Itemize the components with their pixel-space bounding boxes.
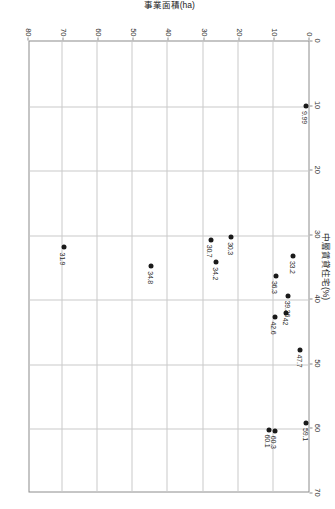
y-axis-tick-label: 0 — [305, 18, 313, 36]
gridline-horizontal — [131, 41, 132, 491]
data-point[interactable] — [266, 427, 271, 432]
y-axis-tick-label: 50 — [130, 18, 138, 36]
x-axis-tick-label: 70 — [313, 488, 321, 496]
data-point[interactable] — [283, 310, 288, 315]
data-point-label: 30.3 — [226, 242, 233, 255]
gridline-horizontal — [202, 41, 203, 491]
gridline-horizontal — [167, 41, 168, 491]
data-point[interactable] — [61, 244, 66, 249]
x-axis-tick-label: 20 — [313, 165, 321, 173]
y-axis-tick-label: 60 — [95, 18, 103, 36]
data-point-label: 60.1 — [263, 434, 270, 447]
x-axis-tick-label: 50 — [313, 359, 321, 367]
gridline-horizontal — [96, 41, 97, 491]
data-point[interactable] — [303, 420, 308, 425]
data-point-label: 30.7 — [205, 244, 212, 257]
gridline-vertical — [29, 299, 308, 300]
data-point-label: 31.9 — [58, 252, 65, 265]
data-point[interactable] — [297, 347, 302, 352]
y-axis-title: 事業面積(ha) — [28, 0, 309, 12]
data-point[interactable] — [208, 237, 213, 242]
data-point-label: 9.99 — [300, 111, 307, 124]
data-point[interactable] — [272, 428, 277, 433]
data-point-label: 59.1 — [301, 428, 308, 441]
rotated-figure-container: 中層賃貸住宅(%) 事業面積(ha) 010203040506070 01020… — [0, 0, 335, 509]
gridline-horizontal — [61, 41, 62, 491]
y-axis-tick-label: 70 — [59, 18, 67, 36]
data-point[interactable] — [148, 263, 153, 268]
x-axis-tick-label: 60 — [313, 423, 321, 431]
data-point[interactable] — [273, 273, 278, 278]
x-axis-tick-label: 40 — [313, 294, 321, 302]
data-point[interactable] — [228, 234, 233, 239]
gridline-vertical — [29, 170, 308, 171]
y-axis-tick-label: 20 — [235, 18, 243, 36]
y-axis-title-label: 事業面積(ha) — [143, 1, 194, 10]
x-axis-tick-label: 0 — [313, 38, 321, 42]
data-point-label: 47.7 — [295, 354, 302, 367]
gridline-vertical — [29, 235, 308, 236]
y-axis-tick-label: 10 — [270, 18, 278, 36]
data-point-label: 36.3 — [270, 280, 277, 293]
data-point-label: 34.8 — [146, 271, 153, 284]
data-point-label: 42 — [281, 317, 288, 324]
y-axis-tick-label: 40 — [165, 18, 173, 36]
gridline-vertical — [29, 364, 308, 365]
data-point[interactable] — [303, 103, 308, 108]
data-point-label: 34.2 — [211, 267, 218, 280]
gridline-vertical — [29, 106, 308, 107]
gridline-horizontal — [272, 41, 273, 491]
data-point-label: 33.2 — [288, 260, 295, 273]
data-point[interactable] — [272, 314, 277, 319]
scatter-chart-figure: 中層賃貸住宅(%) 事業面積(ha) 010203040506070 01020… — [0, 0, 335, 509]
data-point[interactable] — [290, 253, 295, 258]
x-axis-tick-label: 10 — [313, 100, 321, 108]
data-point-label: 42.6 — [269, 321, 276, 334]
x-axis-title: 中層賃貸住宅(%) — [321, 40, 330, 492]
data-point[interactable] — [285, 293, 290, 298]
x-axis-tick-label: 30 — [313, 230, 321, 238]
gridline-horizontal — [237, 41, 238, 491]
data-point[interactable] — [213, 259, 218, 264]
y-axis-tick-label: 30 — [200, 18, 208, 36]
plot-area: 9.9959.147.733.239.364236.342.660.360.13… — [28, 40, 309, 492]
y-axis-tick-label: 80 — [24, 18, 32, 36]
